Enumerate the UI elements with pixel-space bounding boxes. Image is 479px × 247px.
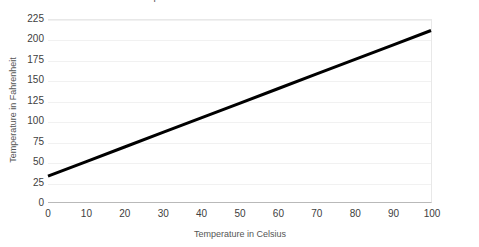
y-tick-label: 100 — [4, 116, 44, 126]
x-tick-label: 20 — [105, 209, 145, 219]
x-tick-label: 60 — [258, 209, 298, 219]
x-tick-label: 30 — [143, 209, 183, 219]
plot-area — [48, 19, 432, 203]
series-layer — [48, 20, 431, 202]
y-tick-label: 150 — [4, 75, 44, 85]
chart-title: Temperature Conversion: Celsius to Fahre… — [0, 0, 479, 2]
y-tick-label: 50 — [4, 157, 44, 167]
x-tick-label: 0 — [28, 209, 68, 219]
line-chart: Temperature Conversion: Celsius to Fahre… — [0, 0, 479, 247]
x-tick-label: 80 — [335, 209, 375, 219]
x-tick-label: 70 — [297, 209, 337, 219]
x-tick-label: 10 — [66, 209, 106, 219]
y-tick-label: 75 — [4, 137, 44, 147]
y-tick-label: 125 — [4, 96, 44, 106]
x-tick-label: 40 — [182, 209, 222, 219]
x-axis-tick-labels: 0102030405060708090100 — [48, 209, 432, 223]
y-tick-label: 225 — [4, 14, 44, 24]
y-tick-label: 0 — [4, 198, 44, 208]
x-tick-label: 90 — [374, 209, 414, 219]
x-axis-title: Temperature in Celsius — [48, 229, 432, 239]
x-tick-label: 100 — [412, 209, 452, 219]
y-tick-label: 175 — [4, 55, 44, 65]
x-tick-label: 50 — [220, 209, 260, 219]
series-line — [48, 31, 431, 177]
y-tick-label: 25 — [4, 178, 44, 188]
y-tick-label: 200 — [4, 34, 44, 44]
